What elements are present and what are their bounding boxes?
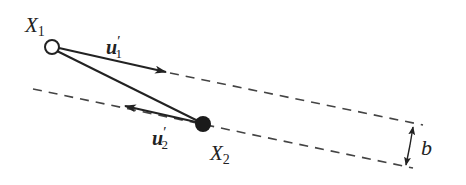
label-u1-prime: u′1 [106,33,122,61]
upper-trajectory-line [170,73,423,125]
label-x1: X1 [24,13,45,39]
collision-diagram: X1 u′1 u′2 X2 b [0,0,466,185]
impact-parameter-arrow-lower [406,145,410,165]
label-u2-prime: u′2 [152,124,168,152]
particle-x1-open-circle [45,40,59,54]
label-x2: X2 [209,141,230,167]
label-impact-parameter-b: b [421,135,432,160]
impact-parameter-arrow [410,127,413,145]
separation-line [57,51,198,121]
particle-x2-filled-circle [195,116,211,132]
